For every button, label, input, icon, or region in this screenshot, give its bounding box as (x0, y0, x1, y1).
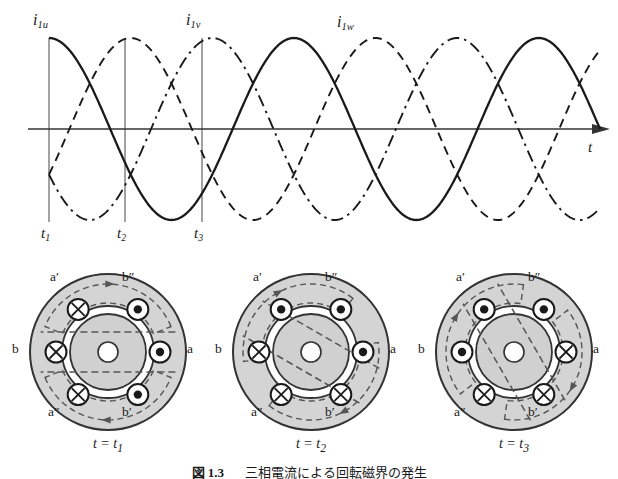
coil-label-t1-b: b (12, 341, 19, 357)
coil-label-t2-a-dprime: a″ (251, 404, 263, 420)
coil-label-t3-b: b (418, 341, 425, 357)
conductor-left-into-page (46, 342, 67, 363)
conductor-bottom-right-out-of-page (127, 384, 148, 405)
coil-label-t1-b-dprime: b″ (122, 269, 134, 285)
figure-caption-text: 三相電流による回転磁界の発生 (245, 465, 427, 479)
dot-out-of-page-icon (359, 348, 367, 356)
figure-caption: 図 1.3 三相電流による回転磁界の発生 (0, 462, 618, 479)
coil-label-t2-a-prime: a′ (253, 269, 262, 285)
coil-label-t2-a: a (390, 341, 396, 357)
cs-caption-t2: t = t2 (261, 436, 361, 455)
dot-out-of-page-icon (480, 305, 488, 313)
conductor-top-left-out-of-page (271, 299, 292, 320)
conductor-top-right-out-of-page (127, 299, 148, 320)
conductor-bottom-right-into-page (330, 384, 351, 405)
cross-section-t2 (208, 262, 414, 442)
figure-number: 図 1.3 (192, 465, 225, 479)
coil-label-t3-b-dprime: b″ (528, 269, 540, 285)
time-label-t3: t3 (194, 226, 203, 243)
dot-out-of-page-icon (337, 305, 345, 313)
conductor-bottom-left-into-page (474, 384, 495, 405)
dot-out-of-page-icon (540, 305, 548, 313)
conductor-left-into-page (249, 342, 270, 363)
curve-label-i1u: i1u (33, 12, 48, 31)
coil-label-t1-a-prime: a′ (50, 269, 59, 285)
conductor-right-out-of-page (150, 342, 171, 363)
conductor-right-out-of-page (353, 342, 374, 363)
coil-label-t2-b-dprime: b″ (325, 269, 337, 285)
cross-section-t3 (411, 262, 617, 442)
dot-out-of-page-icon (277, 305, 285, 313)
dot-out-of-page-icon (134, 390, 142, 398)
coil-label-t3-a: a (593, 341, 599, 357)
time-label-t2: t2 (117, 226, 126, 243)
coil-label-t3-a-dprime: a″ (454, 404, 466, 420)
coil-label-t2-b: b (215, 341, 222, 357)
conductor-top-left-out-of-page (474, 299, 495, 320)
dot-out-of-page-icon (458, 348, 466, 356)
conductor-bottom-right-into-page (533, 384, 554, 405)
coil-label-t1-a: a (187, 341, 193, 357)
axis-arrowhead (592, 124, 610, 134)
time-gridlines (49, 38, 202, 222)
conductor-bottom-left-into-page (68, 384, 89, 405)
shaft-hole (301, 342, 321, 362)
waveform-chart (0, 0, 618, 250)
conductor-top-right-out-of-page (533, 299, 554, 320)
conductor-top-left-into-page (68, 299, 89, 320)
shaft-hole (504, 342, 524, 362)
shaft-hole (98, 342, 118, 362)
conductor-right-into-page (556, 342, 577, 363)
curve-label-i1w: i1w (337, 14, 354, 33)
coil-label-t1-a-dprime: a″ (48, 404, 60, 420)
conductor-bottom-left-into-page (271, 384, 292, 405)
coil-label-t1-b-prime: b′ (122, 404, 132, 420)
time-label-t1: t1 (41, 226, 50, 243)
cs-caption-t3: t = t3 (464, 436, 564, 455)
coil-label-t2-b-prime: b′ (325, 404, 335, 420)
conductor-top-right-out-of-page (330, 299, 351, 320)
axis-label-t: t (588, 140, 592, 155)
cross-section-t1 (5, 262, 211, 442)
conductor-left-out-of-page (452, 342, 473, 363)
time-axis (28, 124, 610, 134)
figure-root: i1u i1v i1w t t1 t2 t3 a′ b″ b a a″ b′ a… (0, 0, 618, 479)
dot-out-of-page-icon (156, 348, 164, 356)
coil-label-t3-b-prime: b′ (528, 404, 538, 420)
dot-out-of-page-icon (134, 305, 142, 313)
coil-label-t3-a-prime: a′ (456, 269, 465, 285)
curve-label-i1v: i1v (186, 12, 200, 31)
cs-caption-t1: t = t1 (58, 436, 158, 455)
